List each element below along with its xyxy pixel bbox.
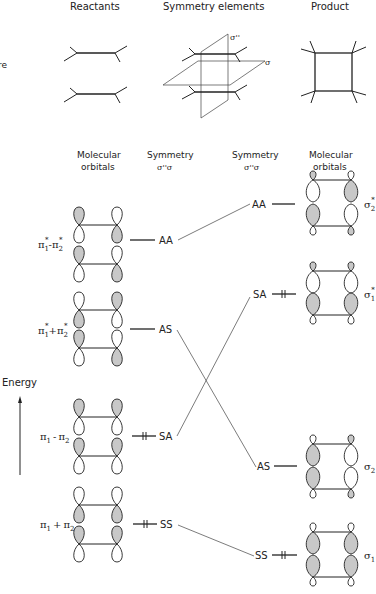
reactant-mo-pi1star-minus-pi2star: π1*-π2* (38, 207, 122, 282)
mo-label: σ1 (364, 550, 375, 564)
svg-text:σ''σ: σ''σ (244, 163, 260, 172)
header-symmetry-elements: Symmetry elements (163, 1, 264, 12)
symmetry-label: AS (159, 324, 172, 335)
header-product: Product (311, 1, 349, 12)
svg-text:Symmetry: Symmetry (147, 150, 194, 160)
mo-label: π1-π2 (40, 431, 69, 445)
arrow-up-icon (18, 396, 22, 403)
level-reactant-ss: SS (133, 519, 173, 530)
product-mo-sigma1-star: σ1* (306, 262, 375, 324)
horizontal-mirror-plane (163, 61, 265, 85)
svg-text:Symmetry: Symmetry (232, 150, 279, 160)
symmetry-label: SA (159, 431, 173, 442)
header-reactants: Reactants (70, 1, 120, 12)
svg-text:Molecular: Molecular (309, 150, 353, 160)
reactant-ethylene-top (64, 46, 127, 62)
correlation-ss-ss (178, 525, 254, 556)
mo-label: σ2* (364, 196, 375, 213)
mo-label: π1+π2 (40, 519, 74, 533)
symmetry-label: SS (255, 550, 268, 561)
product-mo-sigma1: σ1 (306, 523, 375, 586)
product-cyclobutane (301, 41, 366, 103)
mo-label: σ1* (364, 286, 375, 303)
column-header-left-mo: Molecular orbitals (77, 150, 121, 172)
symmetry-label: AA (159, 235, 173, 246)
level-product-sa: SA (253, 289, 296, 300)
symmetry-label: AA (252, 199, 266, 210)
reactant-mo-pi1-minus-pi2: π1-π2 (40, 399, 122, 474)
reactant-mo-pi1star-plus-pi2star: π1*+π2* (38, 292, 122, 366)
mo-label: π1*-π2* (38, 236, 63, 253)
level-product-aa: AA (252, 199, 295, 210)
mo-label: σ2 (364, 461, 375, 475)
svg-text:orbitals: orbitals (313, 162, 347, 172)
level-product-as: AS (257, 461, 297, 472)
product-mo-sigma2: σ2 (306, 435, 375, 498)
product-mo-sigma2-star: σ2* (306, 171, 375, 235)
vertical-mirror-plane (201, 34, 228, 118)
orbital-correlation-diagram: Reactants Symmetry elements Product re (0, 0, 376, 594)
symmetry-label: SS (160, 519, 173, 530)
svg-text:orbitals: orbitals (81, 162, 115, 172)
symmetry-elements-figure: σ'' σ (163, 33, 271, 118)
symmetry-label: AS (257, 461, 270, 472)
correlation-aa-aa (178, 204, 250, 240)
level-reactant-sa: SA (132, 431, 173, 442)
column-header-right-mo: Molecular orbitals (309, 150, 353, 172)
svg-text:σ''σ: σ''σ (157, 163, 173, 172)
correlation-sa-sa (177, 297, 250, 436)
level-reactant-aa: AA (130, 235, 173, 246)
level-reactant-as: AS (130, 324, 172, 335)
column-header-right-symmetry: Symmetry σ''σ (232, 150, 279, 172)
energy-axis: Energy (2, 377, 37, 475)
svg-text:Molecular: Molecular (77, 150, 121, 160)
reactant-ethylene-bottom (64, 87, 127, 103)
correlation-lines (177, 204, 256, 556)
mo-label: π1*+π2* (38, 322, 68, 339)
column-header-left-symmetry: Symmetry σ''σ (147, 150, 194, 172)
symmetry-label: SA (253, 289, 267, 300)
correlation-as-as (177, 330, 256, 467)
energy-axis-label: Energy (2, 377, 37, 388)
reactant-mo-pi1-plus-pi2: π1+π2 (40, 487, 122, 562)
vertical-plane-label: σ'' (230, 33, 240, 42)
edge-text-fragment: re (0, 60, 8, 70)
level-product-ss: SS (255, 550, 297, 561)
horizontal-plane-label: σ (265, 58, 271, 67)
